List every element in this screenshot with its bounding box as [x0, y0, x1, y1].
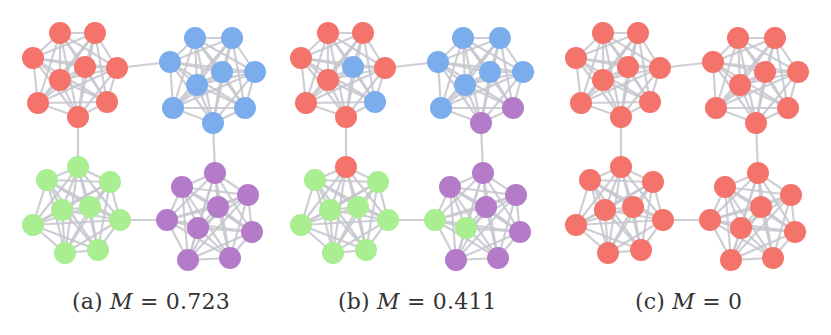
node-purple	[187, 217, 209, 239]
node-red	[67, 106, 89, 128]
node-red	[617, 56, 639, 78]
node-red	[750, 196, 772, 218]
node-purple	[177, 249, 199, 271]
node-red	[784, 221, 806, 243]
node-blue	[427, 51, 449, 73]
node-green	[109, 209, 131, 231]
node-green	[304, 169, 326, 191]
node-red	[745, 112, 767, 134]
node-red	[622, 196, 644, 218]
node-red	[747, 162, 769, 184]
node-red	[702, 51, 724, 73]
node-red	[290, 47, 312, 69]
node-red	[730, 217, 752, 239]
node-red	[565, 214, 587, 236]
node-purple	[439, 176, 461, 198]
node-red	[652, 209, 674, 231]
node-purple	[475, 196, 497, 218]
node-blue	[184, 27, 206, 49]
node-red	[777, 97, 799, 119]
node-blue	[489, 27, 511, 49]
node-green	[54, 242, 76, 264]
node-red	[754, 61, 776, 83]
node-red	[594, 199, 616, 221]
node-purple	[470, 112, 492, 134]
node-red	[639, 91, 661, 113]
node-green	[67, 156, 89, 178]
panel-b-graph	[290, 22, 534, 271]
node-green	[347, 196, 369, 218]
node-purple	[502, 97, 524, 119]
caption-b-value: = 0.411	[400, 289, 497, 314]
node-red	[49, 69, 71, 91]
node-purple	[487, 247, 509, 269]
node-green	[367, 171, 389, 193]
nodes	[290, 22, 534, 271]
caption-panel-a: (a) M = 0.723	[72, 289, 230, 314]
node-red	[729, 74, 751, 96]
node-green	[79, 196, 101, 218]
node-purple	[472, 162, 494, 184]
node-red	[714, 176, 736, 198]
node-red	[335, 106, 357, 128]
node-red	[295, 92, 317, 114]
node-blue	[221, 27, 243, 49]
network-panels	[0, 0, 831, 285]
node-red	[764, 27, 786, 49]
caption-c-value: = 0	[695, 289, 742, 314]
node-red	[720, 249, 742, 271]
node-purple	[445, 249, 467, 271]
node-green	[424, 209, 446, 231]
node-purple	[219, 247, 241, 269]
node-blue	[342, 56, 364, 78]
node-red	[610, 106, 632, 128]
node-red	[49, 22, 71, 44]
node-red	[649, 57, 671, 79]
node-blue	[364, 91, 386, 113]
modularity-figure: (a) M = 0.723 (b) M = 0.411 (c) M = 0	[0, 0, 831, 335]
caption-b-prefix: (b)	[338, 289, 370, 314]
node-red	[74, 56, 96, 78]
node-purple	[204, 162, 226, 184]
caption-c-variable: M	[672, 289, 695, 314]
node-red	[699, 209, 721, 231]
caption-c-prefix: (c)	[635, 289, 665, 314]
caption-b-variable: M	[377, 289, 400, 314]
node-blue	[430, 97, 452, 119]
node-purple	[237, 184, 259, 206]
node-red	[352, 22, 374, 44]
node-green	[455, 217, 477, 239]
node-red	[727, 27, 749, 49]
node-red	[705, 97, 727, 119]
node-red	[570, 92, 592, 114]
node-red	[96, 91, 118, 113]
node-blue	[479, 61, 501, 83]
node-green	[319, 199, 341, 221]
node-red	[374, 57, 396, 79]
node-blue	[202, 112, 224, 134]
node-red	[610, 156, 632, 178]
node-green	[355, 239, 377, 261]
nodes	[565, 22, 809, 271]
nodes	[22, 22, 266, 271]
node-red	[22, 47, 44, 69]
node-green	[51, 199, 73, 221]
node-blue	[454, 74, 476, 96]
node-purple	[505, 184, 527, 206]
caption-a-value: = 0.723	[133, 289, 230, 314]
panel-c-graph	[565, 22, 809, 271]
node-red	[84, 22, 106, 44]
node-blue	[244, 61, 266, 83]
node-purple	[156, 209, 178, 231]
node-blue	[211, 61, 233, 83]
node-purple	[509, 221, 531, 243]
caption-panel-c: (c) M = 0	[635, 289, 742, 314]
node-red	[592, 69, 614, 91]
node-red	[317, 69, 339, 91]
node-green	[87, 239, 109, 261]
node-blue	[512, 61, 534, 83]
node-green	[322, 242, 344, 264]
caption-a-prefix: (a)	[72, 289, 103, 314]
node-blue	[186, 74, 208, 96]
node-red	[787, 61, 809, 83]
